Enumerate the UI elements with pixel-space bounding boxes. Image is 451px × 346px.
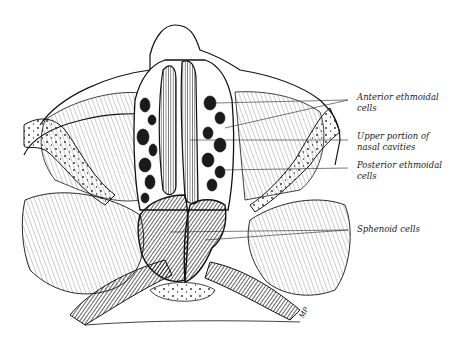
right-nasal-cavity	[181, 61, 198, 204]
label-sphenoid-cells: Sphenoid cells	[357, 224, 420, 235]
label-line: Upper portion of	[357, 131, 429, 142]
clivus-base	[85, 321, 300, 325]
label-line: cells	[357, 171, 442, 182]
label-line: cells	[357, 103, 439, 114]
label-anterior-ethmoidal: Anterior ethmoidal cells	[357, 92, 439, 114]
label-line: nasal cavities	[357, 142, 429, 153]
sella-turcica	[150, 283, 215, 302]
label-posterior-ethmoidal: Posterior ethmoidal cells	[357, 160, 442, 182]
right-middle-fossa	[248, 200, 350, 295]
label-upper-nasal-cavities: Upper portion of nasal cavities	[357, 131, 429, 153]
label-line: Sphenoid cells	[357, 224, 420, 235]
left-nasal-cavity	[159, 66, 176, 195]
label-line: Anterior ethmoidal	[357, 92, 439, 103]
label-line: Posterior ethmoidal	[357, 160, 442, 171]
